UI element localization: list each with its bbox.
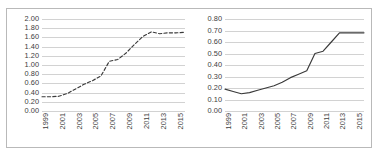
x-axis-tick-label: 2011 <box>323 113 330 129</box>
x-axis-tick-label: 2009 <box>126 113 133 129</box>
x-axis-tick-label: 2001 <box>241 113 248 129</box>
x-axis-tick-label: 2003 <box>76 113 83 129</box>
x-axis-tick-label: 2003 <box>258 113 265 129</box>
y-axis-tick-label: 0.40 <box>25 89 39 96</box>
y-axis-tick-label: 0.80 <box>208 15 222 22</box>
plot-area-right: 0.000.100.200.300.400.500.600.700.80 <box>225 19 364 111</box>
series-right <box>225 19 364 111</box>
y-axis-tick-label: 0.00 <box>25 107 39 114</box>
x-axis-tick-label: 2005 <box>92 113 99 129</box>
plot-area-left: 0.000.200.400.600.801.001.201.401.601.80… <box>42 19 185 111</box>
x-axis-tick-label: 2013 <box>160 113 167 129</box>
y-axis-tick-label: 2.00 <box>25 15 39 22</box>
y-axis-tick-label: 0.10 <box>208 96 222 103</box>
x-axis-tick-label: 2005 <box>274 113 281 129</box>
y-axis-tick-label: 1.00 <box>25 61 39 68</box>
x-axis-tick-label: 2015 <box>356 113 363 129</box>
x-axis-tick-label: 2001 <box>59 113 66 129</box>
y-axis-tick-label: 0.30 <box>208 73 222 80</box>
series-left <box>42 19 185 111</box>
y-axis-tick-label: 0.20 <box>25 98 39 105</box>
y-axis-tick-label: 1.40 <box>25 43 39 50</box>
x-axis-right: 199920012003200520072009201120132015 <box>225 111 364 147</box>
x-axis-tick-label: 2009 <box>307 113 314 129</box>
y-axis-tick-label: 0.60 <box>25 80 39 87</box>
x-axis-tick-label: 2007 <box>290 113 297 129</box>
y-axis-tick-label: 0.80 <box>25 70 39 77</box>
y-axis-tick-label: 1.20 <box>25 52 39 59</box>
x-axis-tick-label: 2015 <box>177 113 184 129</box>
x-axis-left: 199920012003200520072009201120132015 <box>42 111 185 147</box>
y-axis-tick-label: 1.60 <box>25 34 39 41</box>
x-axis-tick-label: 2007 <box>109 113 116 129</box>
x-axis-tick-label: 2011 <box>143 113 150 129</box>
x-axis-tick-label: 1999 <box>225 113 232 129</box>
y-axis-tick-label: 0.00 <box>208 107 222 114</box>
x-axis-tick-label: 2013 <box>339 113 346 129</box>
figure-frame: 0.000.200.400.600.801.001.201.401.601.80… <box>6 8 372 148</box>
chart-left: 0.000.200.400.600.801.001.201.401.601.80… <box>7 9 193 149</box>
y-axis-tick-label: 0.70 <box>208 27 222 34</box>
x-axis-tick-label: 1999 <box>42 113 49 129</box>
y-axis-tick-label: 0.20 <box>208 84 222 91</box>
y-axis-tick-label: 1.80 <box>25 24 39 31</box>
chart-right: 0.000.100.200.300.400.500.600.700.80 199… <box>193 9 372 149</box>
y-axis-tick-label: 0.50 <box>208 50 222 57</box>
y-axis-tick-label: 0.60 <box>208 38 222 45</box>
y-axis-tick-label: 0.40 <box>208 61 222 68</box>
